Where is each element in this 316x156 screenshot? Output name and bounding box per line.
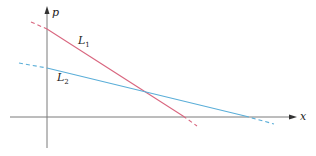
horizontal-axis-arrow-icon [289,115,297,120]
line-l2: L2 [19,63,274,124]
horizontal-axis-label: x [300,110,307,123]
line-l1-label: L1 [77,34,90,49]
supply-demand-diagram: p x L1 L2 [0,0,316,156]
line-l1: L1 [31,22,197,126]
vertical-axis-label: p [52,6,59,19]
vertical-axis-arrow-icon [45,6,50,14]
horizontal-axis: x [10,110,307,123]
